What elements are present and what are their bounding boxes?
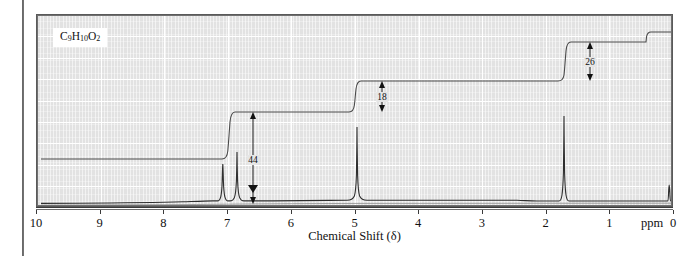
x-axis-title: Chemical Shift (δ) — [36, 229, 673, 244]
formula-element-h: H — [72, 30, 80, 42]
x-axis-tick-4 — [418, 210, 419, 214]
spectrum-trace — [41, 116, 673, 203]
integration-value-26: 26 — [584, 57, 596, 67]
spectrum-traces — [37, 15, 673, 207]
nmr-figure: 44 18 26 C9H10O2 109876543210 ppm Chemic… — [0, 0, 698, 256]
formula-sub-2: 2 — [96, 34, 100, 43]
formula-sub-10: 10 — [80, 34, 88, 43]
x-axis-tick-5 — [355, 210, 356, 214]
x-axis-tick-7 — [227, 210, 228, 214]
left-margin-rule — [22, 0, 24, 256]
formula-element-c: C — [60, 30, 68, 42]
x-axis-line-primary — [36, 207, 673, 208]
x-axis-tick-9 — [100, 210, 101, 214]
peak-marker-arrow — [248, 185, 258, 193]
spectrum-baseline-echo — [41, 203, 673, 205]
x-axis — [36, 207, 673, 209]
x-axis-tick-10 — [36, 210, 37, 214]
x-axis-tick-2 — [546, 210, 547, 214]
integration-value-18: 18 — [376, 92, 388, 102]
x-axis-tick-3 — [482, 210, 483, 214]
x-axis-tick-8 — [163, 210, 164, 214]
integration-value-44: 44 — [247, 155, 259, 165]
x-axis-tick-0 — [673, 210, 674, 214]
spectrum-plot-area: 44 18 26 — [36, 14, 673, 207]
x-axis-tick-1 — [609, 210, 610, 214]
molecular-formula-label: C9H10O2 — [53, 28, 107, 47]
x-axis-tick-6 — [291, 210, 292, 214]
